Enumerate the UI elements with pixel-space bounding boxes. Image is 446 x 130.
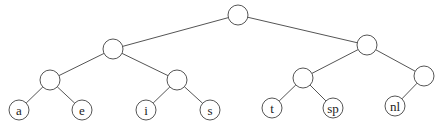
node-label: sp (327, 101, 339, 116)
node-circle (167, 70, 187, 90)
internal-node (228, 5, 248, 25)
leaf-node-s: s (200, 100, 220, 120)
tree-edges (26, 17, 417, 103)
internal-node (414, 66, 434, 86)
tree-edge (57, 87, 74, 103)
tree-nodes: aeistspnl (9, 5, 434, 120)
internal-node (103, 39, 123, 59)
node-label: s (207, 103, 212, 118)
tree-edge (184, 87, 202, 104)
internal-node (293, 68, 313, 88)
node-circle (228, 5, 248, 25)
node-label: a (16, 103, 22, 118)
node-circle (293, 68, 313, 88)
tree-edge (312, 50, 358, 74)
tree-edge (310, 85, 326, 101)
leaf-node-a: a (9, 100, 29, 120)
node-label: t (270, 101, 274, 116)
huffman-tree-diagram: aeistspnl (0, 0, 446, 130)
tree-edge (279, 85, 296, 101)
node-circle (40, 70, 60, 90)
node-circle (414, 66, 434, 86)
tree-edge (123, 18, 229, 47)
leaf-node-sp: sp (323, 98, 343, 118)
tree-edge (248, 17, 358, 42)
tree-edge (376, 50, 415, 71)
node-circle (357, 35, 377, 55)
internal-node (167, 70, 187, 90)
node-label: e (79, 103, 85, 118)
tree-edge (122, 53, 168, 75)
leaf-node-t: t (262, 98, 282, 118)
node-circle (103, 39, 123, 59)
leaf-node-i: i (136, 100, 156, 120)
node-label: nl (390, 99, 401, 114)
tree-edge (402, 83, 417, 99)
tree-edge (153, 87, 170, 103)
internal-node (40, 70, 60, 90)
tree-edge (26, 87, 43, 103)
tree-edge (59, 53, 104, 75)
node-label: i (144, 103, 148, 118)
leaf-node-e: e (72, 100, 92, 120)
leaf-node-nl: nl (385, 96, 405, 116)
internal-node (357, 35, 377, 55)
